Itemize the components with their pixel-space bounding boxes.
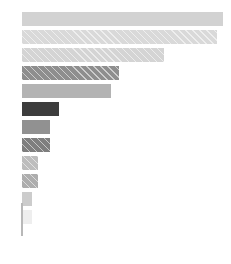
bar-4[interactable] xyxy=(21,65,120,81)
bar-12[interactable] xyxy=(21,209,33,225)
bar-fill xyxy=(22,210,32,224)
bar-hatch-pattern xyxy=(22,174,38,188)
bar-3[interactable] xyxy=(21,47,165,63)
bar-6[interactable] xyxy=(21,101,60,117)
bar-1[interactable] xyxy=(21,11,224,27)
bar-fill xyxy=(22,102,59,116)
bar-10[interactable] xyxy=(21,173,39,189)
bar-2[interactable] xyxy=(21,29,218,45)
bar-fill xyxy=(22,12,223,26)
bar-hatch-pattern xyxy=(22,48,164,62)
bar-fill xyxy=(22,84,111,98)
bar-8[interactable] xyxy=(21,137,51,153)
bar-5[interactable] xyxy=(21,83,112,99)
y-axis-spine xyxy=(21,203,23,236)
plot-area xyxy=(0,0,231,264)
bar-hatch-pattern xyxy=(22,30,217,44)
bar-11[interactable] xyxy=(21,191,33,207)
bar-7[interactable] xyxy=(21,119,51,135)
bar-hatch-pattern xyxy=(22,156,38,170)
bar-fill xyxy=(22,192,32,206)
bar-fill xyxy=(22,120,50,134)
bar-hatch-pattern xyxy=(22,138,50,152)
bar-chart xyxy=(0,0,231,264)
bar-9[interactable] xyxy=(21,155,39,171)
bar-hatch-pattern xyxy=(22,66,119,80)
